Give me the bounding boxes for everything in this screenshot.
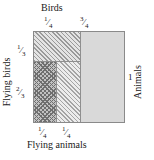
plot-area: [33, 31, 125, 123]
region-flying-birds: [34, 62, 57, 123]
fraction-one-third: 1⁄3: [17, 44, 26, 58]
fraction-three-quarters-top: 3⁄4: [80, 16, 89, 30]
probability-area-diagram: Birds 1⁄4 3⁄4 Flying birds 1⁄3 2⁄3 Anima…: [0, 0, 154, 160]
fraction-one-quarter-bottom-left: 1⁄4: [38, 126, 47, 140]
fraction-denominator: 3: [22, 50, 26, 58]
fraction-one-quarter-top: 1⁄4: [44, 16, 53, 30]
bottom-axis-title: Flying animals: [27, 140, 87, 150]
region-flying-nonbirds: [57, 62, 81, 123]
region-remaining-animals: [81, 32, 125, 123]
fraction-numerator: 1: [44, 15, 48, 23]
fraction-denominator: 4: [85, 22, 89, 30]
fraction-denominator: 3: [21, 92, 25, 100]
fraction-one-quarter-bottom-right: 1⁄4: [62, 126, 71, 140]
left-axis-title: Flying birds: [2, 58, 12, 107]
bottom-axis-tick-one-quarter-right: 1⁄4: [62, 126, 71, 140]
top-axis-title: Birds: [41, 3, 63, 13]
fraction-numerator: 1: [17, 43, 21, 51]
fraction-numerator: 1: [38, 125, 42, 133]
fraction-numerator: 1: [62, 125, 66, 133]
region-birds-flying: [34, 32, 81, 62]
fraction-denominator: 4: [49, 22, 53, 30]
right-axis-title: Animals: [133, 65, 143, 99]
fraction-numerator: 2: [16, 85, 20, 93]
left-axis-tick-two-thirds: 2⁄3: [16, 86, 25, 100]
top-axis-tick-one-quarter: 1⁄4: [44, 16, 53, 30]
left-axis-tick-one-third: 1⁄3: [17, 44, 26, 58]
right-axis-value-one: 1: [128, 73, 133, 82]
fraction-numerator: 3: [80, 15, 84, 23]
top-axis-tick-three-quarters: 3⁄4: [80, 16, 89, 30]
bottom-axis-tick-one-quarter-left: 1⁄4: [38, 126, 47, 140]
fraction-two-thirds: 2⁄3: [16, 86, 25, 100]
